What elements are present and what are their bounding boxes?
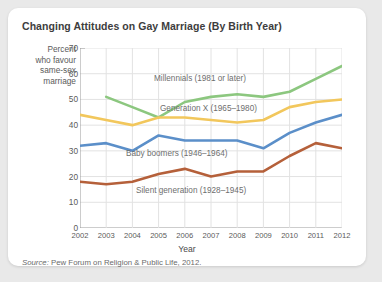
x-axis-tick-label: 2004: [124, 231, 141, 240]
y-axis-tick-label: 50: [69, 94, 78, 104]
x-axis-tick-label: 2002: [72, 231, 89, 240]
y-axis-tick-label: 20: [69, 172, 78, 182]
x-axis-title: Year: [8, 244, 366, 254]
series-label-silent-generation: Silent generation (1928–1945): [136, 186, 246, 195]
series-label-generation-x: Generation X (1965–1980): [160, 104, 257, 113]
series-label-millennials: Millennials (1981 or later): [154, 74, 246, 83]
page-title: Changing Attitudes on Gay Marriage (By B…: [22, 20, 282, 32]
x-axis-tick-label: 2012: [334, 231, 351, 240]
x-axis-tick-label: 2011: [308, 231, 324, 240]
source-note: Source: Pew Forum on Religion & Public L…: [22, 258, 201, 267]
y-axis-ticks: 010203040506070: [52, 46, 78, 230]
series-label-baby-boomers: Baby boomers (1946–1964): [126, 149, 228, 158]
x-axis-tick-label: 2010: [281, 231, 298, 240]
x-axis-tick-label: 2006: [176, 231, 193, 240]
chart-card: Changing Attitudes on Gay Marriage (By B…: [8, 8, 366, 266]
y-axis-tick-label: 60: [69, 69, 78, 79]
y-axis-tick-label: 40: [69, 120, 78, 130]
x-axis-tick-label: 2009: [255, 231, 272, 240]
x-axis-tick-label: 2003: [98, 231, 115, 240]
y-axis-tick-label: 70: [69, 43, 78, 53]
x-axis-tick-label: 2007: [203, 231, 220, 240]
y-axis-tick-label: 10: [69, 197, 78, 207]
x-axis-tick-label: 2008: [229, 231, 246, 240]
x-axis-tick-label: 2005: [150, 231, 167, 240]
y-axis-tick-label: 30: [69, 146, 78, 156]
source-text: Pew Forum on Religion & Public Life, 201…: [49, 258, 202, 267]
source-label: Source:: [22, 258, 49, 267]
